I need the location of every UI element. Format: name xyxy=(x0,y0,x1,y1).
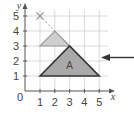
small-triangle xyxy=(40,31,70,46)
y-tick-5: 5 xyxy=(13,10,19,22)
x-tick-3: 3 xyxy=(67,96,73,108)
enlargement-diagram: 1 2 3 4 5 1 2 3 4 5 0 y x A xyxy=(0,0,134,116)
x-tick-2: 2 xyxy=(52,96,58,108)
y-tick-3: 3 xyxy=(13,40,19,52)
x-tick-5: 5 xyxy=(96,96,102,108)
y-tick-2: 2 xyxy=(13,55,19,67)
x-tick-4: 4 xyxy=(81,96,87,108)
triangle-a-label: A xyxy=(66,60,73,71)
y-axis-arrowhead-icon xyxy=(23,3,28,9)
y-tick-4: 4 xyxy=(13,25,19,37)
arrow-left-icon xyxy=(101,54,134,61)
origin-label: 0 xyxy=(17,91,23,103)
x-axis-label: x xyxy=(110,91,116,102)
x-tick-1: 1 xyxy=(37,96,43,108)
y-axis-label: y xyxy=(16,0,22,11)
y-tick-1: 1 xyxy=(13,70,19,82)
